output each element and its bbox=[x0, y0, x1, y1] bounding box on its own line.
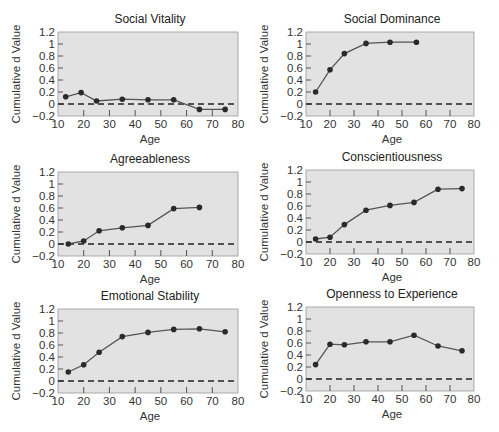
data-point-marker bbox=[171, 206, 177, 212]
data-point-marker bbox=[119, 225, 125, 231]
data-point-marker bbox=[313, 236, 319, 242]
y-tick-label: 0 bbox=[297, 373, 303, 385]
x-tick-label: 80 bbox=[468, 393, 481, 405]
y-tick-label: 1.2 bbox=[39, 26, 55, 38]
y-tick-label: 0.4 bbox=[287, 74, 304, 86]
x-tick-label: 80 bbox=[468, 118, 481, 130]
data-point-marker bbox=[387, 339, 393, 345]
y-axis-label: Cumulative d Value bbox=[258, 163, 270, 262]
chart-title: Conscientiousness bbox=[342, 150, 443, 164]
data-point-marker bbox=[145, 223, 151, 229]
data-point-marker bbox=[96, 228, 102, 234]
chart-emotional-stability: Emotional Stability−0.200.20.40.60.811.2… bbox=[10, 289, 244, 422]
y-tick-label: 0 bbox=[297, 98, 303, 110]
x-tick-label: 70 bbox=[206, 118, 219, 130]
chart-title: Social Vitality bbox=[114, 12, 185, 26]
x-tick-label: 30 bbox=[103, 395, 116, 407]
data-point-marker bbox=[222, 107, 228, 113]
x-tick-label: 60 bbox=[420, 118, 433, 130]
y-axis-label: Cumulative d Value bbox=[258, 300, 270, 399]
data-point-marker bbox=[171, 97, 177, 103]
y-tick-label: 1 bbox=[297, 313, 303, 325]
data-point-marker bbox=[197, 326, 203, 332]
y-tick-label: 0.8 bbox=[39, 327, 55, 339]
x-axis-label: Age bbox=[140, 410, 160, 422]
y-tick-label: 0 bbox=[297, 236, 303, 248]
x-tick-label: 30 bbox=[348, 393, 361, 405]
y-tick-label: 1.2 bbox=[287, 164, 303, 176]
y-axis-label: Cumulative d Value bbox=[258, 25, 270, 124]
data-point-marker bbox=[63, 94, 69, 100]
y-tick-label: 1 bbox=[49, 178, 55, 190]
y-tick-label: 0.8 bbox=[287, 325, 303, 337]
y-tick-label: 0.8 bbox=[39, 50, 55, 62]
x-tick-label: 30 bbox=[103, 258, 116, 270]
data-point-marker bbox=[387, 203, 393, 209]
data-point-marker bbox=[81, 362, 87, 368]
data-point-marker bbox=[327, 67, 333, 73]
data-point-marker bbox=[145, 330, 151, 336]
data-point-marker bbox=[171, 327, 177, 333]
y-tick-label: 0.2 bbox=[39, 226, 55, 238]
x-tick-label: 60 bbox=[420, 393, 433, 405]
y-tick-label: 0.4 bbox=[39, 351, 56, 363]
x-tick-label: 20 bbox=[77, 395, 90, 407]
data-point-marker bbox=[342, 222, 348, 228]
y-tick-label: 0.2 bbox=[287, 224, 303, 236]
data-point-marker bbox=[342, 342, 348, 348]
x-tick-label: 50 bbox=[396, 256, 409, 268]
y-tick-label: 0.2 bbox=[39, 363, 55, 375]
chart-title: Openness to Experience bbox=[326, 287, 458, 301]
y-tick-label: 0.2 bbox=[39, 86, 55, 98]
x-axis-label: Age bbox=[382, 133, 402, 145]
data-point-marker bbox=[363, 339, 369, 345]
chart-title: Agreeableness bbox=[110, 152, 190, 166]
data-point-marker bbox=[119, 96, 125, 102]
x-tick-label: 50 bbox=[154, 258, 167, 270]
x-tick-label: 40 bbox=[372, 393, 385, 405]
x-tick-label: 80 bbox=[232, 118, 245, 130]
data-point-marker bbox=[65, 369, 71, 375]
data-point-marker bbox=[363, 41, 369, 47]
data-point-marker bbox=[387, 39, 393, 45]
data-point-marker bbox=[459, 186, 465, 192]
chart-social-dominance: Social Dominance−0.200.20.40.60.811.2102… bbox=[258, 12, 480, 145]
x-tick-label: 10 bbox=[52, 258, 65, 270]
y-tick-label: 1 bbox=[49, 38, 55, 50]
x-tick-label: 70 bbox=[444, 393, 457, 405]
y-tick-label: 1 bbox=[297, 176, 303, 188]
x-tick-label: 60 bbox=[180, 395, 193, 407]
data-point-marker bbox=[222, 329, 228, 335]
data-point-marker bbox=[414, 39, 420, 45]
y-tick-label: 1.2 bbox=[287, 26, 303, 38]
x-axis-label: Age bbox=[382, 271, 402, 283]
x-tick-label: 10 bbox=[52, 118, 65, 130]
data-point-marker bbox=[145, 97, 151, 103]
y-tick-label: 0.6 bbox=[287, 62, 303, 74]
x-tick-label: 70 bbox=[444, 256, 457, 268]
x-tick-label: 30 bbox=[103, 118, 116, 130]
x-tick-label: 60 bbox=[180, 118, 193, 130]
x-tick-label: 70 bbox=[206, 258, 219, 270]
x-tick-label: 50 bbox=[396, 393, 409, 405]
data-point-marker bbox=[197, 205, 203, 211]
data-point-marker bbox=[435, 343, 441, 349]
x-tick-label: 10 bbox=[300, 256, 313, 268]
x-tick-label: 40 bbox=[129, 258, 142, 270]
y-tick-label: 0.4 bbox=[39, 214, 56, 226]
y-tick-label: 0.6 bbox=[39, 62, 55, 74]
x-tick-label: 80 bbox=[232, 258, 245, 270]
y-tick-label: 0.6 bbox=[39, 339, 55, 351]
y-tick-label: 0.4 bbox=[39, 74, 56, 86]
data-point-marker bbox=[197, 107, 203, 113]
x-tick-label: 80 bbox=[232, 395, 245, 407]
x-axis-label: Age bbox=[140, 133, 160, 145]
x-tick-label: 10 bbox=[300, 118, 313, 130]
x-tick-label: 70 bbox=[444, 118, 457, 130]
data-point-marker bbox=[411, 200, 417, 206]
x-tick-label: 60 bbox=[180, 258, 193, 270]
figure: Social Vitality−0.200.20.40.60.811.21020… bbox=[0, 0, 499, 432]
data-point-marker bbox=[65, 241, 71, 247]
data-point-marker bbox=[119, 334, 125, 340]
x-axis-label: Age bbox=[382, 408, 402, 420]
